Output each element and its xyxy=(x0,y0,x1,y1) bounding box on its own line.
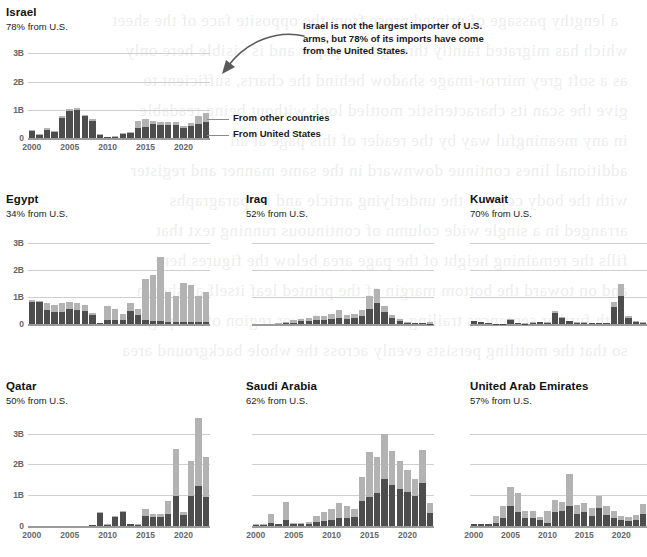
bar-segment-us-egypt-2002 xyxy=(44,310,50,324)
bar-segment-us-egypt-2013 xyxy=(127,311,133,324)
bar-segment-other-qatar-2018 xyxy=(165,501,171,514)
x-tick-label-qatar-2000: 2000 xyxy=(22,530,41,540)
bar-segment-other-saudi-2014 xyxy=(359,477,365,502)
bar-qatar-2005 xyxy=(66,415,74,526)
x-tick-label-saudi-2000: 2000 xyxy=(246,530,265,540)
bar-segment-other-uae-2006 xyxy=(515,493,521,512)
bar-segment-other-qatar-2023 xyxy=(203,457,209,497)
bar-saudi-2019 xyxy=(396,415,404,526)
bar-israel-2000 xyxy=(28,42,36,138)
bar-segment-other-uae-2016 xyxy=(589,508,595,516)
bar-segment-us-uae-2009 xyxy=(537,520,543,526)
bar-segment-us-egypt-2010 xyxy=(104,320,110,324)
bar-qatar-2022 xyxy=(195,415,203,526)
bar-segment-us-saudi-2014 xyxy=(359,501,365,526)
bar-segment-other-egypt-2023 xyxy=(203,292,209,322)
bar-israel-2010 xyxy=(104,42,112,138)
bar-segment-us-israel-2012 xyxy=(120,134,126,138)
bar-segment-other-saudi-2011 xyxy=(336,503,342,518)
bar-segment-us-egypt-2023 xyxy=(203,322,209,324)
bar-kuwait-2011 xyxy=(551,232,558,324)
bar-segment-us-qatar-2009 xyxy=(97,513,103,526)
bar-iraq-2019 xyxy=(396,232,404,324)
bar-segment-us-israel-2021 xyxy=(188,126,194,138)
bar-segment-other-saudi-2022 xyxy=(419,450,425,483)
bar-kuwait-2000 xyxy=(470,232,477,324)
x-tick-label-qatar-2005: 2005 xyxy=(60,530,79,540)
bar-segment-us-egypt-2018 xyxy=(165,322,171,324)
plot-area-egypt: 3B2B1B0 xyxy=(28,232,210,324)
bar-iraq-2014 xyxy=(358,232,366,324)
bar-uae-2002 xyxy=(485,415,492,526)
bar-israel-2018 xyxy=(164,42,172,138)
bar-israel-2013 xyxy=(127,42,135,138)
bar-segment-us-uae-2000 xyxy=(471,524,477,526)
bar-segment-us-kuwait-2000 xyxy=(471,321,477,324)
bar-egypt-2022 xyxy=(195,232,203,324)
bar-uae-2021 xyxy=(625,415,632,526)
bar-kuwait-2005 xyxy=(507,232,514,324)
bar-segment-us-saudi-2012 xyxy=(344,518,350,526)
x-tick-label-qatar-2015: 2015 xyxy=(136,530,155,540)
bar-iraq-2010 xyxy=(328,232,336,324)
bar-kuwait-2020 xyxy=(618,232,625,324)
bar-segment-other-uae-2013 xyxy=(566,474,572,507)
bar-uae-2015 xyxy=(581,415,588,526)
x-tick-label-qatar-2010: 2010 xyxy=(98,530,117,540)
bar-israel-2020 xyxy=(180,42,188,138)
bar-segment-us-kuwait-2014 xyxy=(574,323,580,324)
bar-segment-us-uae-2008 xyxy=(530,518,536,526)
bar-segment-us-egypt-2008 xyxy=(89,315,95,324)
x-tick-label-israel-2010: 2010 xyxy=(98,142,117,152)
x-tick-label-uae-2005: 2005 xyxy=(501,530,520,540)
panel-subtitle-israel: 78% from U.S. xyxy=(6,21,68,32)
bar-segment-us-iraq-2007 xyxy=(306,321,312,324)
bar-segment-us-saudi-2022 xyxy=(419,483,425,526)
bar-segment-other-egypt-2013 xyxy=(127,303,133,311)
x-tick-label-israel-2005: 2005 xyxy=(60,142,79,152)
bar-segment-us-qatar-2013 xyxy=(127,524,133,526)
bar-segment-other-iraq-2011 xyxy=(336,310,342,318)
bar-segment-us-saudi-2011 xyxy=(336,518,342,526)
bar-segment-other-saudi-2021 xyxy=(412,479,418,497)
bar-saudi-2017 xyxy=(381,415,389,526)
bar-segment-us-kuwait-2006 xyxy=(515,323,521,324)
bar-segment-us-saudi-2013 xyxy=(351,517,357,526)
bar-segment-other-uae-2003 xyxy=(493,516,499,523)
bar-egypt-2016 xyxy=(149,232,157,324)
bar-segment-other-saudi-2004 xyxy=(283,502,289,520)
bar-uae-2000 xyxy=(470,415,477,526)
bar-uae-2009 xyxy=(536,415,543,526)
bar-segment-us-israel-2002 xyxy=(44,130,50,138)
bar-series-kuwait xyxy=(470,232,647,324)
bar-iraq-2016 xyxy=(373,232,381,324)
bar-segment-other-israel-2015 xyxy=(142,119,148,127)
bar-segment-other-egypt-2018 xyxy=(165,292,171,322)
panel-title-iraq: Iraq xyxy=(246,193,308,205)
bar-segment-us-egypt-2021 xyxy=(188,322,194,324)
bar-uae-2018 xyxy=(603,415,610,526)
bar-iraq-2020 xyxy=(404,232,412,324)
bar-iraq-2009 xyxy=(320,232,328,324)
bar-segment-us-uae-2006 xyxy=(515,512,521,526)
panel-title-israel: Israel xyxy=(6,6,68,18)
bar-qatar-2009 xyxy=(96,415,104,526)
bar-segment-us-iraq-2008 xyxy=(313,320,319,324)
bar-segment-other-saudi-2023 xyxy=(427,503,433,513)
bar-saudi-2022 xyxy=(419,415,427,526)
bar-israel-2012 xyxy=(119,42,127,138)
bar-series-uae xyxy=(470,415,647,526)
bar-series-qatar xyxy=(28,415,210,526)
bar-kuwait-2016 xyxy=(588,232,595,324)
bar-segment-us-iraq-2009 xyxy=(321,320,327,324)
bar-segment-other-qatar-2015 xyxy=(142,509,148,516)
bar-segment-us-kuwait-2009 xyxy=(537,322,543,324)
bar-segment-us-saudi-2020 xyxy=(404,492,410,526)
y-tick-label-qatar-3B: 3B xyxy=(13,429,24,439)
bar-segment-us-israel-2011 xyxy=(112,137,118,138)
bar-egypt-2018 xyxy=(164,232,172,324)
bar-egypt-2001 xyxy=(36,232,44,324)
y-tick-label-israel-2B: 2B xyxy=(13,77,24,87)
bar-uae-2004 xyxy=(500,415,507,526)
bar-segment-other-egypt-2015 xyxy=(142,279,148,320)
